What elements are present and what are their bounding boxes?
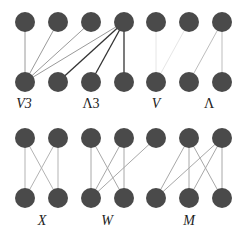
node-bottom-top xyxy=(179,128,199,148)
node-bottom-bottom xyxy=(179,188,199,208)
labels-layer: V3Λ3VΛXWM xyxy=(16,96,215,228)
group-label-m: M xyxy=(182,213,196,228)
node-top-top xyxy=(212,12,232,32)
group-label-lambda3: Λ3 xyxy=(82,96,99,111)
node-top-bottom xyxy=(81,72,101,92)
node-bottom-top xyxy=(48,128,68,148)
group-label-w: W xyxy=(101,213,114,228)
edge-v xyxy=(156,22,189,82)
edge-v3 xyxy=(25,22,124,82)
bipartite-graph-diagram: V3Λ3VΛXWM xyxy=(0,0,247,237)
node-top-top xyxy=(179,12,199,32)
node-bottom-bottom xyxy=(48,188,68,208)
node-top-bottom xyxy=(114,72,134,92)
node-bottom-bottom xyxy=(81,188,101,208)
group-label-v3: V3 xyxy=(16,96,32,111)
node-bottom-top xyxy=(212,128,232,148)
node-top-top xyxy=(114,12,134,32)
node-bottom-bottom xyxy=(146,188,166,208)
node-top-top xyxy=(81,12,101,32)
group-label-x: X xyxy=(37,213,47,228)
node-top-bottom xyxy=(179,72,199,92)
node-bottom-top xyxy=(114,128,134,148)
node-top-top xyxy=(15,12,35,32)
group-label-v: V xyxy=(152,96,162,111)
node-top-bottom xyxy=(48,72,68,92)
node-top-top xyxy=(48,12,68,32)
node-top-bottom xyxy=(15,72,35,92)
node-bottom-bottom xyxy=(212,188,232,208)
node-top-bottom xyxy=(146,72,166,92)
node-bottom-top xyxy=(146,128,166,148)
node-top-bottom xyxy=(212,72,232,92)
node-top-top xyxy=(146,12,166,32)
node-bottom-bottom xyxy=(114,188,134,208)
edges-layer xyxy=(25,22,222,198)
node-bottom-bottom xyxy=(15,188,35,208)
edge-lambda3 xyxy=(91,22,124,82)
node-bottom-top xyxy=(15,128,35,148)
edge-lambda xyxy=(189,22,222,82)
edge-m xyxy=(156,138,189,198)
group-label-lambda: Λ xyxy=(204,96,215,111)
edge-v3 xyxy=(25,22,58,82)
node-bottom-top xyxy=(81,128,101,148)
